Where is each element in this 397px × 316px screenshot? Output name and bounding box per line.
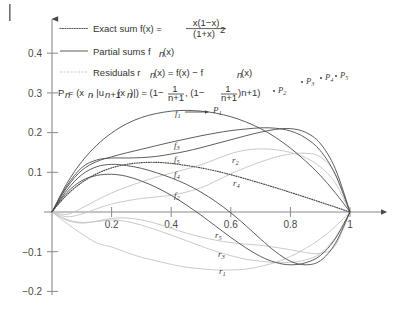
curve-exact-sum-f-x-x-1-x-1-x-2 [52,162,350,212]
subscript: 5 [345,74,348,81]
curve-f5 [52,128,350,212]
svg-text:(x): (x) [163,46,174,57]
legend-label-partial-sums: Partial sums f n (x) [93,46,174,60]
subscript: 1 [178,112,181,119]
curve-f3 [52,128,350,212]
svg-text:, |u: , |u [91,87,104,98]
svg-text:n+1: n+1 [221,92,237,103]
formula-fraction-2: 1 n+1 [221,83,237,103]
axis-group: 0.2 0.4 0.6 0.8 1 0.4 0.3 0.2 0.1 −0.1 −… [22,19,381,297]
curve-label-r2: r2 [232,155,240,166]
y-tick-label-0: 0.4 [28,48,42,59]
point-marker-P5 [335,75,337,77]
subscript: 2 [283,89,286,96]
y-tick-label-3: 0.1 [28,167,42,178]
svg-text:P: P [58,87,64,98]
x-tick-label-2: 0.6 [224,219,238,230]
formula-fraction-1: 1 n+1 [168,83,184,103]
svg-text:(x): (x) [241,67,252,78]
point-marker-P3 [301,81,303,83]
point-label-P2: P2 [277,85,286,96]
svg-text:= (x: = (x [68,87,84,98]
svg-text:, (1−: , (1− [185,87,205,98]
point-label-P3: P3 [305,76,314,87]
curve-f4 [52,164,350,264]
subscript: 4 [330,76,333,83]
subscript: 3 [310,80,314,87]
y-tick-label-4: −0.1 [22,247,42,258]
curve-label-r4: r4 [233,178,241,189]
point-labels-group: P2P3P4P5 [273,70,348,96]
svg-text:(x) = f(x) − f: (x) = f(x) − f [154,67,203,78]
svg-text:)|) = (1−: )|) = (1− [130,87,164,98]
exact-sum-curve-group [52,162,350,212]
subscript: 2 [236,159,240,166]
curve-r5 [52,212,350,254]
figure-container: 0.2 0.4 0.6 0.8 1 0.4 0.3 0.2 0.1 −0.1 −… [0,0,397,316]
subscript: 3 [176,144,181,151]
y-tick-label-1: 0.3 [28,88,42,99]
svg-text:n+1: n+1 [168,92,184,103]
curve-r2 [52,149,350,215]
subscript: 1 [223,270,226,277]
point-label-P5: P5 [339,70,348,81]
fraction-denominator-exponent: 2 [220,24,225,35]
chart-svg: 0.2 0.4 0.6 0.8 1 0.4 0.3 0.2 0.1 −0.1 −… [0,0,397,316]
subscript: 4 [177,173,181,180]
x-tick-label-4: 1 [347,219,353,230]
y-tick-label-5: −0.2 [22,286,42,297]
curve-label-P1: P1 [212,105,222,116]
curve-label-f5: f5 [174,154,181,165]
svg-text:(x: (x [117,87,125,98]
curve-label-f1: f1 [175,108,181,119]
svg-text:Partial sums f: Partial sums f [93,46,151,57]
svg-text:)n+1): )n+1) [238,87,260,98]
legend-label-residuals: Residuals r n (x) = f(x) − f n (x) [93,67,252,81]
fraction-numerator: x(1−x) [193,17,220,28]
legend-label-exact-sum: Exact sum f(x) = [93,23,162,34]
point-label-P4: P4 [324,72,333,83]
legend-exact-sum-fraction: x(1−x) (1+x) 2 [186,17,226,39]
curve-label-f3: f3 [174,140,181,151]
point-marker-P2 [273,90,275,92]
curve-label-r1: r1 [219,266,226,277]
fraction-denominator: (1+x) [193,28,215,39]
subscript: 5 [219,234,223,241]
legend-formula-pn: P n = (x n , |u n+1 (x n )|) = (1− 1 n+1… [58,83,260,103]
svg-text:Residuals r: Residuals r [93,67,141,78]
subscript: 4 [237,182,241,189]
curve-label-r5: r5 [215,230,223,241]
subscript: 1 [219,109,222,116]
y-tick-label-2: 0.2 [28,127,42,138]
page-margin-mark [9,4,11,21]
point-marker-P4 [320,77,322,79]
curve-label-r3: r3 [218,249,226,260]
curve-r4 [52,153,350,217]
legend: Exact sum f(x) = x(1−x) (1+x) 2 Partial … [58,17,260,103]
curve-label-f2: f2 [174,190,181,201]
x-tick-label-3: 0.8 [283,219,297,230]
